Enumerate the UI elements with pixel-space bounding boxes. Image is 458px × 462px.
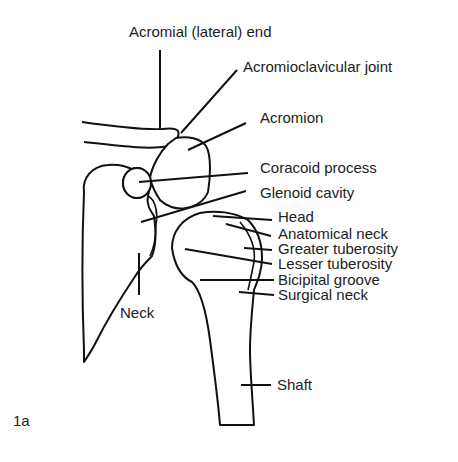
label-head: Head — [278, 208, 314, 225]
clavicle — [82, 122, 179, 148]
label-acromion: Acromion — [260, 109, 323, 126]
label-surgical-neck: Surgical neck — [278, 286, 369, 303]
label-lesser-tuberosity: Lesser tuberosity — [278, 255, 393, 272]
coracoid-overlay — [123, 168, 151, 198]
leader-acromioclavicular-joint — [181, 70, 237, 133]
humerus — [172, 212, 262, 425]
label-coracoid-process: Coracoid process — [260, 159, 377, 176]
humerus-head-and-shaft — [172, 212, 262, 425]
clavicle-shaft — [82, 122, 179, 148]
leader-acromion — [188, 123, 246, 150]
shoulder-anatomy-diagram: Acromial (lateral) end Acromioclavicular… — [0, 0, 458, 462]
label-neck: Neck — [120, 304, 155, 321]
label-acromioclavicular-joint: Acromioclavicular joint — [243, 58, 393, 75]
label-acromial-end: Acromial (lateral) end — [129, 23, 272, 40]
figure-label: 1a — [13, 412, 30, 429]
label-glenoid-cavity: Glenoid cavity — [260, 184, 355, 201]
label-shaft: Shaft — [277, 376, 313, 393]
